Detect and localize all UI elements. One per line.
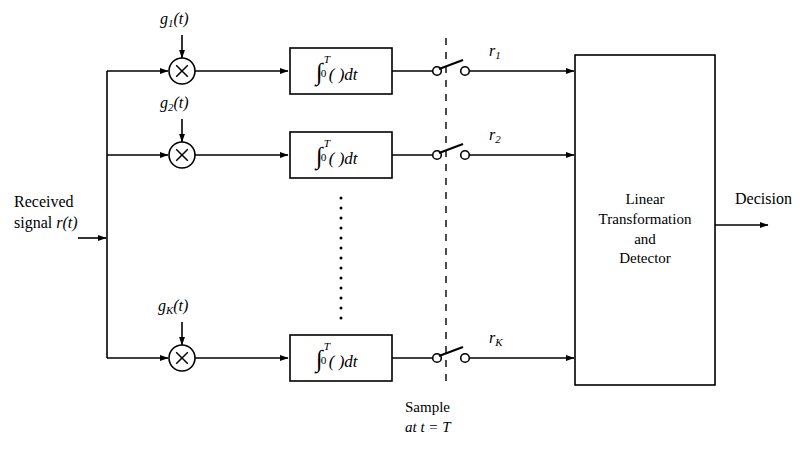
sample-caption: Sample at t = T	[405, 398, 451, 437]
switch-right-terminal-1	[461, 67, 470, 76]
integrator-formula-K: ∫T0( )dt	[316, 345, 358, 373]
detector-text-line1: Linear	[575, 190, 715, 210]
sample-caption-line1: Sample	[405, 398, 451, 418]
block-diagram-figure: Received signal r(t) g1(t) g2(t) gK(t) ∫…	[0, 0, 809, 451]
switch-arm-K	[439, 347, 463, 356]
integrator-formula-2: ∫T0( )dt	[316, 142, 358, 170]
gain-label-K: gK(t)	[158, 297, 188, 317]
output-label-r1: r1	[489, 42, 501, 62]
sample-caption-line2: at t = T	[405, 418, 451, 438]
detector-block-text: Linear Transformation and Detector	[575, 190, 715, 269]
switch-right-terminal-K	[461, 354, 470, 363]
gain-label-1: g1(t)	[160, 10, 189, 30]
received-signal-label: Received signal r(t)	[14, 192, 78, 234]
integrator-formula-1: ∫T0( )dt	[316, 58, 358, 86]
detector-text-line2: Transformation	[575, 210, 715, 230]
output-label-rK: rK	[489, 329, 503, 349]
switch-arm-2	[439, 144, 463, 153]
received-signal-line2: signal r(t)	[14, 213, 78, 234]
detector-text-line3: and	[575, 230, 715, 250]
branch-ellipsis-dots	[340, 197, 343, 320]
gain-label-2: g2(t)	[160, 94, 189, 114]
switch-arm-1	[439, 60, 463, 69]
received-signal-expr: r(t)	[56, 214, 77, 231]
decision-label: Decision	[735, 190, 792, 208]
output-label-r2: r2	[489, 126, 501, 146]
received-signal-line1: Received	[14, 192, 78, 213]
switch-right-terminal-2	[461, 151, 470, 160]
detector-text-line4: Detector	[575, 249, 715, 269]
